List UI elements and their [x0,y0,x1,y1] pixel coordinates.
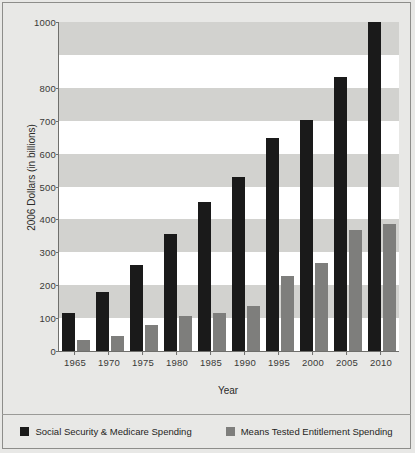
bar-group [61,22,92,351]
bar-social-security [368,22,381,351]
y-axis-tick-label: 600 [4,148,56,159]
bar-social-security [164,234,177,351]
bar-means-tested [213,313,226,351]
y-axis-tick-label: 0 [4,346,56,357]
bar-social-security [96,292,109,351]
legend-swatch-secondary [226,427,235,436]
bar-social-security [232,177,245,351]
bar-group [367,22,398,351]
x-axis-tick: 1980 [166,351,188,368]
legend-label-primary: Social Security & Medicare Spending [35,426,191,437]
x-axis-tick-label: 1995 [268,357,290,368]
x-axis-tick-label: 2005 [336,357,358,368]
bar-means-tested [77,340,90,352]
bar-group [333,22,364,351]
plot-area [58,22,399,352]
x-axis-tick-mark [279,351,280,355]
x-axis-tick-label: 1985 [200,357,222,368]
bar-group [163,22,194,351]
legend-item-means-tested: Means Tested Entitlement Spending [226,426,393,437]
y-axis-tick-label: 500 [4,181,56,192]
bar-means-tested [383,224,396,351]
x-axis-tick: 1990 [234,351,256,368]
bar-social-security [266,138,279,351]
x-axis-tick: 2000 [302,351,324,368]
bar-social-security [198,202,211,351]
bar-means-tested [315,263,328,351]
chart-legend: Social Security & Medicare Spending Mean… [2,414,411,437]
x-axis-tick: 1985 [200,351,222,368]
y-axis-tick-label: 800 [4,82,56,93]
x-axis-tick-label: 1965 [64,357,86,368]
x-axis-tick: 2005 [336,351,358,368]
x-axis-tick: 2010 [370,351,392,368]
x-axis-tick-label: 1980 [166,357,188,368]
y-axis-tick-label: 1000 [4,17,56,28]
bar-groups [59,22,399,351]
x-axis-tick: 1970 [98,351,120,368]
bar-group [231,22,262,351]
bar-group [265,22,296,351]
x-axis-tick-label: 2010 [370,357,392,368]
bar-chart-figure: 2006 Dollars (in billions) 1000800700600… [0,0,415,453]
y-axis-tick-label: 200 [4,280,56,291]
x-axis-tick-mark [347,351,348,355]
bar-group [197,22,228,351]
bar-means-tested [145,325,158,351]
legend-swatch-primary [20,427,29,436]
bar-means-tested [111,336,124,351]
bar-means-tested [247,306,260,351]
x-axis-tick: 1965 [64,351,86,368]
x-axis-tick-mark [313,351,314,355]
bar-social-security [62,313,75,351]
x-axis-tick-label: 2000 [302,357,324,368]
bar-social-security [300,120,313,351]
x-axis-tick-label: 1975 [132,357,154,368]
x-axis-tick-mark [177,351,178,355]
x-axis-tick-label: 1970 [98,357,120,368]
bar-group [95,22,126,351]
x-axis-tick-label: 1990 [234,357,256,368]
x-axis-tick-mark [211,351,212,355]
x-axis-tick-mark [75,351,76,355]
y-axis-tick-label: 300 [4,247,56,258]
y-axis-tick-label: 700 [4,115,56,126]
bar-social-security [130,265,143,351]
y-axis-tick-label: 400 [4,214,56,225]
bar-social-security [334,77,347,351]
x-axis-title: Year [58,385,398,396]
x-axis-tick-mark [381,351,382,355]
bar-group [129,22,160,351]
bar-means-tested [281,276,294,351]
bar-means-tested [179,316,192,351]
y-axis-tick-label: 100 [4,313,56,324]
bar-group [299,22,330,351]
x-axis-ticks: 1965197019751980198519901995200020052010 [58,351,398,375]
x-axis-tick-mark [245,351,246,355]
bar-means-tested [349,230,362,351]
x-axis-tick-mark [109,351,110,355]
x-axis-tick: 1995 [268,351,290,368]
legend-label-secondary: Means Tested Entitlement Spending [241,426,393,437]
legend-item-social-security: Social Security & Medicare Spending [20,426,191,437]
x-axis-tick-mark [143,351,144,355]
x-axis-tick: 1975 [132,351,154,368]
y-axis-ticks: 10008007006005004003002001000 [0,0,56,453]
